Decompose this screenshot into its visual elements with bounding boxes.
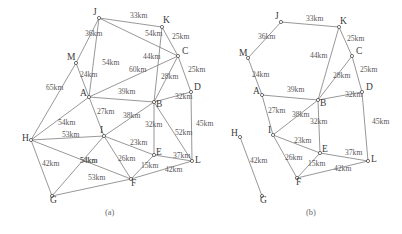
node-label-J: J [275, 11, 279, 21]
edge-weight-E-F: 15km [308, 159, 325, 168]
node-label-D: D [366, 82, 373, 92]
edge-A-B [262, 95, 318, 100]
edge-weight-H-G: 42km [250, 156, 267, 165]
edge-weight-J-M: 36km [85, 29, 102, 38]
edge-weight-F-L: 42km [165, 165, 182, 174]
node-label-M: M [239, 48, 248, 58]
node-A [87, 95, 90, 98]
edge-weight-A-H: 54km [58, 118, 75, 127]
edge-weight-B-E: 32km [310, 117, 327, 126]
node-label-I: I [268, 125, 271, 135]
figure-captions: (a)(b) [105, 207, 316, 217]
edge-weight-J-M: 36km [258, 32, 275, 41]
edge-weight-I-F: 26km [285, 153, 302, 162]
edge-weight-C-A: 60km [129, 65, 146, 74]
node-label-A: A [253, 86, 260, 96]
node-D [360, 90, 363, 93]
edge-weight-I-E: 23km [130, 138, 147, 147]
graph-a-edge-labels: 33km54km36km54km25km44km24km65km60km28km… [42, 11, 213, 182]
node-label-L: L [371, 154, 377, 164]
edge-I-G [52, 136, 104, 196]
edge-weight-C-B: 28km [161, 72, 178, 81]
edge-A-B [89, 97, 154, 102]
node-label-I: I [100, 125, 103, 135]
edge-weight-B-I: 38km [292, 110, 309, 119]
edge-weight-E-F: 15km [141, 161, 158, 170]
edge-weight-A-I: 27km [97, 107, 114, 116]
node-L [366, 159, 369, 162]
edge-weight-D-L: 45km [372, 117, 389, 126]
edge-weight-H-I: 53km [62, 130, 79, 139]
edge-weight-A-B: 39km [287, 85, 304, 94]
node-label-F: F [131, 178, 136, 188]
edge-H-G [31, 140, 52, 196]
edge-weight-D-L: 45km [196, 119, 213, 128]
edge-weight-K-C: 25km [347, 34, 364, 43]
node-label-C: C [182, 46, 188, 56]
node-label-K: K [163, 15, 170, 25]
edge-K-B [154, 27, 162, 102]
edge-C-D [352, 56, 362, 92]
edge-weight-K-C: 25km [172, 32, 189, 41]
edge-weight-B-I: 38km [123, 111, 140, 120]
edge-D-L [191, 92, 192, 161]
edge-J-M [76, 18, 99, 63]
figure-canvas: 33km54km36km54km25km44km24km65km60km28km… [0, 0, 402, 234]
edge-C-D [178, 56, 191, 92]
edge-weight-C-B: 28km [333, 71, 350, 80]
edge-weight-J-C: 54km [145, 29, 162, 38]
edge-weight-H-G: 42km [42, 159, 59, 168]
edge-weight-E-L: 37km [173, 151, 190, 160]
edge-weight-M-A: 24km [252, 70, 269, 79]
node-label-F: F [296, 177, 301, 187]
edge-H-G [240, 137, 262, 196]
node-J [97, 16, 100, 19]
caption-a: (a) [105, 207, 115, 217]
graph-diagram-svg: 33km54km36km54km25km44km24km65km60km28km… [0, 0, 402, 234]
edge-weight-M-A: 24km [80, 70, 97, 79]
edge-weight-I-E: 23km [294, 136, 311, 145]
edge-weight-J-K: 33km [306, 14, 323, 23]
edge-weight-A-B: 39km [118, 87, 135, 96]
node-label-E: E [322, 144, 328, 154]
edge-weight-B-L: 52km [175, 128, 192, 137]
edge-weight-F-L: 42km [334, 164, 351, 173]
edge-weight-C-D: 25km [188, 65, 205, 74]
node-D [189, 90, 192, 93]
node-label-H: H [231, 128, 238, 138]
node-label-C: C [356, 46, 362, 56]
edge-weight-I-G: 54km [80, 156, 97, 165]
node-label-H: H [22, 133, 29, 143]
node-A [260, 93, 263, 96]
edge-K-B [318, 27, 339, 100]
edge-weight-A-I: 27km [268, 106, 285, 115]
node-label-B: B [156, 99, 162, 109]
node-H [29, 138, 32, 141]
node-label-G: G [50, 195, 57, 205]
node-label-L: L [195, 155, 201, 165]
edge-weight-M-H: 65km [46, 83, 63, 92]
edge-weight-B-D: 32km [345, 90, 362, 99]
edge-weight-K-B: 44km [143, 52, 160, 61]
edge-weight-B-E: 32km [145, 120, 162, 129]
edge-M-H [31, 63, 76, 140]
node-K [160, 25, 163, 28]
edge-weight-I-F: 26km [118, 154, 135, 163]
node-C [176, 54, 179, 57]
node-label-J: J [93, 7, 97, 17]
node-label-B: B [320, 98, 326, 108]
node-I [271, 133, 274, 136]
node-label-G: G [260, 195, 267, 205]
edge-weight-F-G: 53km [88, 173, 105, 182]
node-J [279, 20, 282, 23]
edge-weight-J-K: 33km [130, 11, 147, 20]
node-label-E: E [156, 147, 162, 157]
node-label-M: M [67, 52, 76, 62]
node-label-A: A [80, 88, 87, 98]
edge-weight-E-L: 37km [345, 148, 362, 157]
edge-weight-J-A: 54km [102, 58, 119, 67]
node-label-K: K [340, 16, 347, 26]
edge-weight-K-B: 44km [310, 51, 327, 60]
edge-weight-C-D: 25km [360, 65, 377, 74]
node-L [190, 159, 193, 162]
